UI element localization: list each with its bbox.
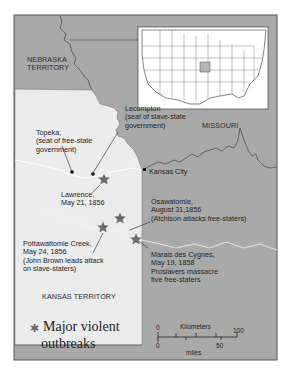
lecompton-label: Lecompton (seat of slave-state governmen… bbox=[125, 105, 186, 130]
lawrence-label: Lawrence, May 21, 1856 bbox=[61, 191, 105, 208]
scale-mi-end: 50 bbox=[216, 342, 223, 349]
legend-label-line1: Major violent bbox=[43, 319, 120, 334]
lecompton-dot bbox=[91, 172, 95, 176]
topeka-label: Topeka, (seat of free-state government) bbox=[36, 129, 92, 154]
scale-km-label: Kilometers bbox=[180, 323, 211, 330]
legend-label-line2: outbreaks bbox=[30, 336, 120, 351]
kansas-city-label: Kansas City bbox=[149, 168, 187, 176]
osawatomie-label: Osawatomie, August 31,1856 (Atchison att… bbox=[151, 198, 246, 223]
kansas-territory-label: KANSAS TERRITORY bbox=[42, 293, 116, 301]
scale-mi-start: 0 bbox=[156, 342, 160, 349]
nebraska-territory-label: NEBRASKA TERRITORY bbox=[27, 56, 69, 73]
topeka-dot bbox=[70, 170, 74, 174]
scale-km-end: 100 bbox=[233, 327, 244, 334]
scale-mi-label: miles bbox=[186, 349, 201, 356]
legend: ✱ Major violent outbreaks bbox=[30, 319, 120, 351]
pottawattomie-label: Pottawattomie Creek, May 24, 1856 (John … bbox=[23, 240, 104, 274]
marais-des-cygnes-label: Marais des Cygnes, May 19, 1858 Proslave… bbox=[151, 251, 218, 285]
missouri-label: MISSOURI bbox=[202, 122, 238, 130]
kansas-city-dot bbox=[143, 168, 146, 171]
scale-km-start: 0 bbox=[156, 324, 160, 331]
star-icon: ✱ bbox=[30, 321, 39, 336]
us-inset-map bbox=[138, 27, 268, 109]
